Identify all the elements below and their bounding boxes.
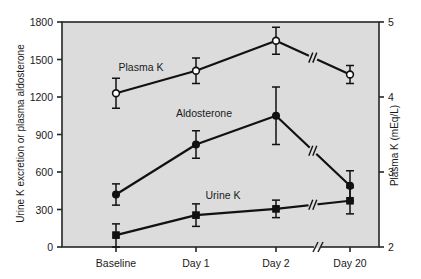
y-axis-left-tick-label: 1500: [30, 54, 54, 66]
y-axis-left-tick-label: 300: [35, 204, 53, 216]
y-axis-left-tick-label: 600: [35, 166, 53, 178]
series-label-aldosterone: Aldosterone: [176, 107, 232, 119]
y-axis-left-tick-label: 1200: [30, 91, 54, 103]
x-axis-tick-label: Day 20: [333, 257, 366, 269]
data-point-open-circle: [347, 71, 354, 78]
x-axis-tick-label: Day 1: [182, 257, 210, 269]
y-axis-left-tick-label: 0: [47, 241, 53, 253]
data-point-open-circle: [193, 67, 200, 74]
y-axis-left-tick-label: 1800: [30, 16, 54, 28]
y-axis-left-label: Urine K excretion or plasma aldosterone: [15, 19, 26, 249]
y-axis-right-tick-label: 2: [388, 241, 394, 253]
data-point-filled-circle: [193, 141, 200, 148]
y-axis-left-tick-label: 900: [35, 129, 53, 141]
series-label-plasma-k: Plasma K: [119, 61, 164, 73]
data-point-filled-square: [193, 212, 200, 219]
figure-chart: 03006009001200150018002345BaselineDay 1D…: [0, 0, 421, 279]
data-point-filled-square: [273, 206, 280, 213]
x-axis-tick-label: Day 2: [262, 257, 290, 269]
data-point-filled-square: [113, 232, 120, 239]
data-point-filled-circle: [113, 191, 120, 198]
y-axis-right-tick-label: 5: [388, 16, 394, 28]
data-point-filled-square: [347, 197, 354, 204]
data-point-open-circle: [273, 37, 280, 44]
y-axis-right-label: Plasma K (mEq/L): [389, 66, 400, 226]
series-label-urine-k: Urine K: [205, 189, 240, 201]
data-point-filled-circle: [273, 112, 280, 119]
chart-canvas: 03006009001200150018002345BaselineDay 1D…: [0, 0, 421, 279]
x-axis-tick-label: Baseline: [96, 257, 136, 269]
data-point-open-circle: [113, 90, 120, 97]
